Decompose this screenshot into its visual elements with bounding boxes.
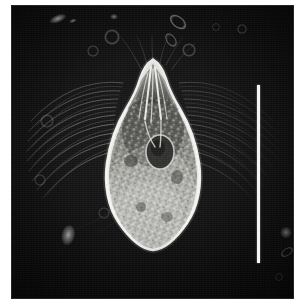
figure-alt-text: Dark-field phase-contrast micrograph of … xyxy=(0,0,1,1)
dark-field-background xyxy=(11,5,294,299)
figure-root: Dark-field phase-contrast micrograph of … xyxy=(0,0,298,308)
micrograph-image xyxy=(11,5,294,299)
scale-bar xyxy=(257,85,260,263)
figure-caption xyxy=(0,0,1,1)
